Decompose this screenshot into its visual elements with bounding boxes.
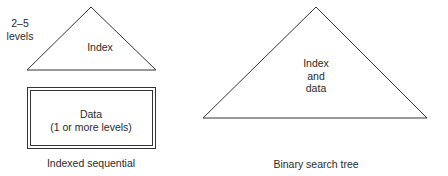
data-label: Data (1 or more levels) xyxy=(30,108,152,133)
indexed-sequential-caption: Indexed sequential xyxy=(31,157,151,170)
binary-search-tree-caption: Binary search tree xyxy=(256,158,376,171)
diagram-shapes xyxy=(0,0,448,176)
index-triangle xyxy=(27,7,156,70)
levels-label: 2–5 levels xyxy=(4,17,36,42)
index-label: Index xyxy=(78,41,122,54)
tree-label: Index and data xyxy=(290,57,342,95)
